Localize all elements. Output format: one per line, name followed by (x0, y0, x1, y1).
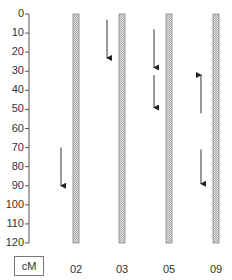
tick-label: 20 (0, 46, 24, 57)
tick-label: 30 (0, 65, 24, 76)
tick-label: 120 (0, 237, 24, 248)
chromosome-bar-03 (119, 14, 125, 243)
chromosome-label-03: 03 (107, 263, 137, 275)
chromosome-label-05: 05 (154, 263, 184, 275)
tick-label: 50 (0, 103, 24, 114)
tick-label: 60 (0, 123, 24, 134)
tick-label: 0 (0, 8, 24, 19)
arrows (61, 20, 201, 186)
tick-label: 40 (0, 84, 24, 95)
chromosome-bars (73, 14, 219, 243)
y-axis (25, 14, 29, 243)
tick-label: 70 (0, 142, 24, 153)
chromosome-label-02: 02 (61, 263, 91, 275)
tick-label: 90 (0, 180, 24, 191)
chromosome-bar-02 (73, 14, 79, 243)
tick-label: 100 (0, 199, 24, 210)
tick-label: 110 (0, 218, 24, 229)
tick-label: 80 (0, 161, 24, 172)
tick-label: 10 (0, 27, 24, 38)
diagram-canvas (0, 0, 232, 280)
linkage-map-diagram: 0102030405060708090100110120 cM 02030509 (0, 0, 232, 280)
chromosome-label-09: 09 (201, 263, 231, 275)
chromosome-bar-09 (213, 14, 219, 243)
unit-label-box: cM (14, 256, 44, 276)
chromosome-bar-05 (166, 14, 172, 243)
